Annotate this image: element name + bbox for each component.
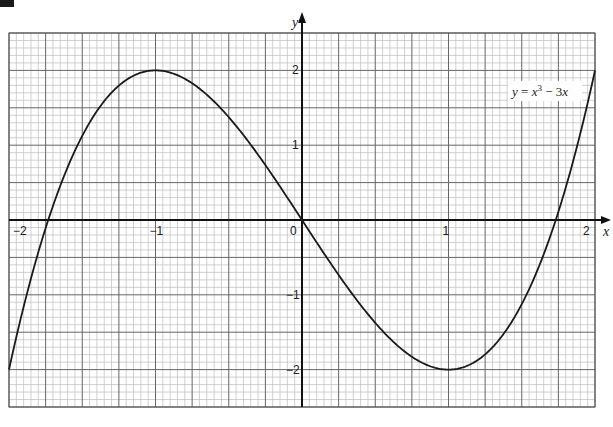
y-tick-label: −1 bbox=[286, 288, 300, 302]
cubic-graph: −2−1012−2−112 y = x3 − 3x y x bbox=[0, 0, 613, 427]
x-tick-label: 0 bbox=[290, 224, 297, 238]
x-tick-label: 2 bbox=[583, 224, 590, 238]
y-tick-label: 2 bbox=[292, 63, 299, 77]
y-tick-label: −2 bbox=[286, 363, 300, 377]
y-axis-label: y bbox=[290, 15, 299, 30]
equation-label: y = x3 − 3x bbox=[508, 81, 582, 101]
x-tick-label: −2 bbox=[13, 224, 27, 238]
x-tick-label: 1 bbox=[443, 224, 450, 238]
y-tick-label: 1 bbox=[292, 138, 299, 152]
x-axis-label: x bbox=[602, 224, 610, 239]
x-tick-label: −1 bbox=[150, 224, 164, 238]
axes bbox=[9, 12, 611, 407]
